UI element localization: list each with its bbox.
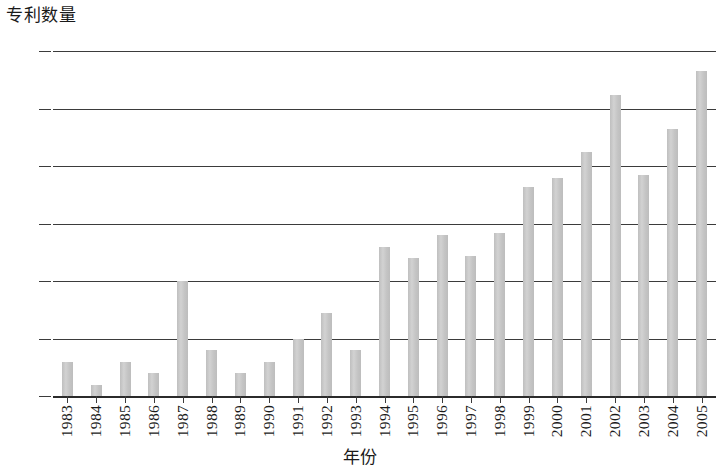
x-tick-mark [413,396,414,403]
bar [638,175,649,396]
bar [62,362,73,397]
y-tick-mark-5 [39,339,51,340]
x-tick-label: 2002 [607,405,623,437]
bar [465,256,476,396]
bar [610,95,621,396]
x-tick-mark [500,396,501,403]
bar [350,350,361,396]
x-tick-label: 1997 [463,405,479,437]
bar [148,373,159,396]
x-tick-mark [212,396,213,403]
bar [523,187,534,396]
x-tick-mark [644,396,645,403]
x-tick-label: 1993 [348,405,364,437]
x-tick-mark [356,396,357,403]
y-tick-mark-10 [39,281,51,282]
bar [552,178,563,397]
bar [91,385,102,397]
x-tick-mark [702,396,703,403]
x-tick-label: 1996 [434,405,450,437]
bar [120,362,131,397]
x-tick-mark [269,396,270,403]
x-tick-label: 1983 [59,405,75,437]
bar [321,313,332,396]
x-tick-mark [298,396,299,403]
x-tick-label: 1990 [261,405,277,437]
x-tick-mark [327,396,328,403]
x-tick-mark [67,396,68,403]
bar [264,362,275,397]
x-tick-label: 1992 [319,405,335,437]
x-tick-label: 1995 [405,405,421,437]
x-tick-label: 2000 [549,405,565,437]
bars-layer [53,51,716,396]
x-tick-label: 1991 [290,405,306,437]
x-tick-mark [529,396,530,403]
bar [408,258,419,396]
y-tick-mark-30 [39,51,51,52]
x-tick-mark [154,396,155,403]
y-tick-mark-15 [39,224,51,225]
x-tick-mark [125,396,126,403]
x-tick-mark [557,396,558,403]
patent-count-bar-chart: 专利数量 051015202530 1983198419851986198719… [0,0,720,474]
x-tick-label: 2004 [665,405,681,437]
x-tick-mark [183,396,184,403]
y-tick-mark-0 [39,396,51,397]
x-tick-mark [673,396,674,403]
x-tick-mark [442,396,443,403]
x-tick-label: 1994 [377,405,393,437]
x-tick-label: 2005 [694,405,710,437]
bar [293,339,304,397]
bar [696,71,707,396]
bar [379,247,390,397]
y-tick-mark-20 [39,166,51,167]
x-tick-label: 1999 [521,405,537,437]
y-tick-mark-25 [39,109,51,110]
bar [437,235,448,396]
bar [581,152,592,396]
x-tick-label: 1989 [232,405,248,437]
bar [177,281,188,396]
x-tick-label: 1986 [146,405,162,437]
bar [494,233,505,396]
x-tick-mark [615,396,616,403]
x-tick-label: 2003 [636,405,652,437]
x-tick-mark [471,396,472,403]
x-tick-label: 1998 [492,405,508,437]
x-tick-mark [385,396,386,403]
bar [667,129,678,396]
x-tick-mark [240,396,241,403]
y-axis-title: 专利数量 [6,4,76,26]
x-axis-title: 年份 [0,446,720,468]
x-tick-mark [586,396,587,403]
x-tick-label: 1988 [204,405,220,437]
x-tick-label: 1987 [175,405,191,437]
x-tick-label: 2001 [578,405,594,437]
bar [235,373,246,396]
x-tick-label: 1984 [88,405,104,437]
x-tick-label: 1985 [117,405,133,437]
bar [206,350,217,396]
x-tick-mark [96,396,97,403]
